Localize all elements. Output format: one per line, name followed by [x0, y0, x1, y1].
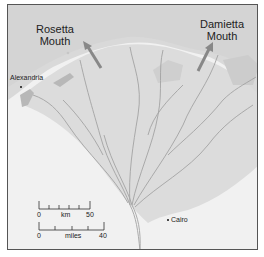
rosetta-label-line1: Rosetta: [36, 23, 74, 35]
miles-scale-end: 40: [99, 232, 107, 240]
alexandria-label: Alexandria: [10, 74, 43, 82]
damietta-mouth-label: Damietta Mouth: [200, 18, 244, 42]
cairo-label: Cairo: [171, 216, 188, 224]
miles-scale-unit: miles: [65, 232, 81, 240]
km-scale-end: 50: [86, 211, 94, 219]
km-scale-start: 0: [37, 211, 41, 219]
damietta-label-line2: Mouth: [200, 30, 244, 42]
rosetta-mouth-label: Rosetta Mouth: [36, 23, 74, 47]
rosetta-label-line2: Mouth: [36, 35, 74, 47]
scale-bars: [38, 197, 108, 237]
miles-scale-start: 0: [37, 232, 41, 240]
cairo-marker: [167, 219, 169, 221]
miles-scale-bar: [39, 222, 104, 230]
km-scale-bar: [39, 201, 90, 209]
map-frame: Rosetta Mouth Damietta Mouth Alexandria …: [7, 4, 258, 250]
alexandria-marker: [20, 86, 22, 88]
km-scale-unit: km: [61, 211, 70, 219]
damietta-label-line1: Damietta: [200, 18, 244, 30]
